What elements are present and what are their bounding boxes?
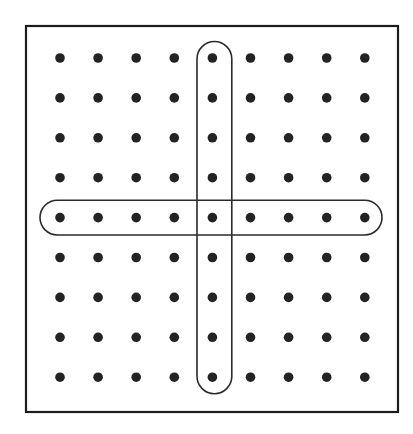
- grid-dot: [284, 53, 294, 63]
- grid-dot: [93, 372, 103, 382]
- grid-dot: [284, 253, 294, 263]
- grid-dot: [360, 333, 370, 343]
- grid-dot: [131, 253, 141, 263]
- grid-dot: [246, 253, 256, 263]
- grid-dot: [170, 293, 180, 303]
- grid-dot: [360, 133, 370, 143]
- grid-dot: [93, 253, 103, 263]
- grid-dot: [131, 293, 141, 303]
- grid-dot: [131, 93, 141, 103]
- grid-dot: [322, 133, 332, 143]
- grid-dot: [246, 173, 256, 183]
- grid-dot: [170, 333, 180, 343]
- grid-dot: [246, 53, 256, 63]
- grid-dot: [322, 333, 332, 343]
- grid-dot: [55, 93, 65, 103]
- grid-dot: [208, 293, 218, 303]
- grid-dot: [55, 333, 65, 343]
- grid-dot: [284, 372, 294, 382]
- grid-dot: [208, 333, 218, 343]
- grid-dot: [93, 173, 103, 183]
- grid-dot: [284, 133, 294, 143]
- grid-dot: [170, 53, 180, 63]
- grid-dot: [322, 253, 332, 263]
- grid-dot: [170, 253, 180, 263]
- grid-dot: [322, 372, 332, 382]
- grid-dot: [55, 293, 65, 303]
- grid-dot: [93, 293, 103, 303]
- grid-dot: [131, 133, 141, 143]
- grid-dot: [246, 93, 256, 103]
- grid-dot: [131, 53, 141, 63]
- grid-dot: [55, 372, 65, 382]
- grid-dot: [170, 133, 180, 143]
- grid-dot: [55, 173, 65, 183]
- grid-dot: [55, 133, 65, 143]
- grid-dot: [360, 213, 370, 223]
- grid-dot: [208, 253, 218, 263]
- array-diagram-canvas: [0, 0, 413, 434]
- grid-dot: [55, 53, 65, 63]
- grid-dot: [93, 333, 103, 343]
- grid-dot: [322, 173, 332, 183]
- grid-dot: [208, 133, 218, 143]
- grid-dot: [246, 372, 256, 382]
- grid-dot: [284, 93, 294, 103]
- grid-dot: [208, 372, 218, 382]
- grid-dot: [360, 372, 370, 382]
- grid-dot: [208, 93, 218, 103]
- grid-dot: [246, 133, 256, 143]
- grid-dot: [55, 213, 65, 223]
- grid-dot: [208, 173, 218, 183]
- grid-dot: [284, 333, 294, 343]
- grid-dot: [93, 133, 103, 143]
- grid-dot: [246, 333, 256, 343]
- grid-dot: [246, 293, 256, 303]
- grid-dot: [322, 53, 332, 63]
- grid-dot: [360, 93, 370, 103]
- grid-dot: [55, 253, 65, 263]
- grid-dot: [322, 93, 332, 103]
- grid-dot: [322, 293, 332, 303]
- grid-dot: [284, 213, 294, 223]
- grid-dot: [284, 173, 294, 183]
- grid-dot: [93, 213, 103, 223]
- grid-dot: [360, 53, 370, 63]
- grid-dot: [93, 53, 103, 63]
- grid-dot: [170, 372, 180, 382]
- grid-dot: [170, 213, 180, 223]
- grid-dot: [360, 293, 370, 303]
- grid-dot: [93, 93, 103, 103]
- grid-dot: [360, 253, 370, 263]
- grid-dot: [284, 293, 294, 303]
- grid-dot: [131, 173, 141, 183]
- grid-dot: [131, 333, 141, 343]
- array-diagram-figure: [0, 0, 413, 434]
- grid-dot: [208, 53, 218, 63]
- grid-dot: [170, 173, 180, 183]
- grid-dot: [170, 93, 180, 103]
- grid-dot: [208, 213, 218, 223]
- grid-dot: [360, 173, 370, 183]
- grid-dot: [322, 213, 332, 223]
- grid-dot: [131, 372, 141, 382]
- grid-dot: [246, 213, 256, 223]
- grid-dot: [131, 213, 141, 223]
